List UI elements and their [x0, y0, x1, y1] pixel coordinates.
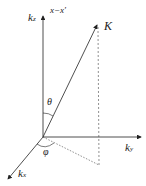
theta-arc	[43, 113, 53, 116]
kx-label: kx	[18, 168, 26, 179]
phi-label: φ	[43, 147, 49, 157]
k-label: K	[104, 20, 112, 32]
theta-label: θ	[47, 97, 52, 107]
projection-vertical	[98, 27, 99, 165]
k-vector	[43, 25, 97, 137]
kz-label: kz	[28, 12, 36, 23]
axis-top-label: x−x′	[50, 6, 66, 15]
coordinate-diagram	[0, 0, 146, 186]
projection-base	[43, 137, 99, 165]
ky-label: ky	[125, 142, 133, 153]
